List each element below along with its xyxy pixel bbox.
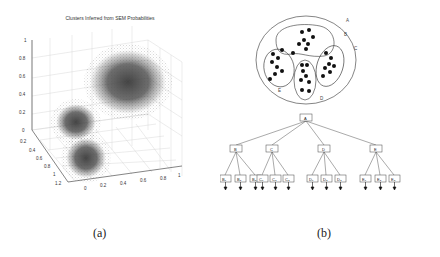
svg-text:D: D — [322, 147, 325, 152]
caption-a: (a) — [93, 226, 106, 241]
svg-text:C: C — [270, 147, 273, 152]
panel-a-scatter-plot: Clusters Inferred from SEM Probabilities — [0, 0, 220, 257]
svg-text:E₂: E₂ — [377, 177, 382, 182]
svg-text:0.8: 0.8 — [44, 164, 51, 169]
svg-text:0.2: 0.2 — [100, 183, 107, 188]
z-axis-ticks: 0 0.2 0.4 0.6 0.8 1 — [19, 38, 27, 133]
svg-text:0.6: 0.6 — [36, 156, 43, 161]
scatter-clusters — [51, 44, 172, 183]
svg-text:0.2: 0.2 — [19, 110, 26, 115]
hierarchy-svg: A B C D E — [220, 0, 440, 230]
svg-text:0.4: 0.4 — [19, 92, 26, 97]
set-C — [311, 42, 349, 90]
set-D — [294, 60, 316, 100]
caption-b: (b) — [317, 226, 331, 241]
svg-text:B₂: B₂ — [237, 177, 242, 182]
svg-text:E: E — [374, 147, 377, 152]
svg-text:0.4: 0.4 — [29, 148, 36, 153]
svg-text:D₂: D₂ — [323, 177, 328, 182]
scatter-3d-axes: 0 0.2 0.4 0.6 0.8 1 0.2 0.4 0.6 0.8 1 1.… — [0, 0, 220, 230]
svg-text:0.8: 0.8 — [19, 56, 26, 61]
svg-text:C₃: C₃ — [285, 177, 290, 182]
y-axis-ticks: 0.2 0.4 0.6 0.8 1 1.2 — [20, 139, 62, 186]
svg-text:0.4: 0.4 — [120, 181, 127, 186]
svg-text:1: 1 — [53, 172, 56, 177]
svg-text:0.2: 0.2 — [20, 139, 27, 144]
venn-diagram — [256, 16, 356, 104]
svg-text:E₁: E₁ — [362, 177, 367, 182]
svg-text:0.6: 0.6 — [140, 178, 147, 183]
tree-node-labels: A B C D E B₁ B₂ B₃ C₁ C₂ C₃ D₁ D₂ D₃ E₁ … — [222, 116, 396, 182]
svg-text:B₁: B₁ — [222, 177, 227, 182]
svg-text:1: 1 — [178, 173, 181, 178]
leaf-arrows — [224, 182, 396, 190]
svg-text:0.8: 0.8 — [160, 176, 167, 181]
svg-text:A: A — [304, 116, 307, 121]
svg-text:0: 0 — [84, 186, 87, 191]
svg-text:C₂: C₂ — [272, 177, 277, 182]
svg-text:A: A — [346, 18, 349, 23]
svg-text:C₁: C₁ — [259, 177, 264, 182]
svg-text:D₃: D₃ — [337, 177, 342, 182]
svg-text:D: D — [320, 96, 324, 101]
tree-edges — [225, 121, 394, 175]
tree-nodes — [220, 114, 400, 182]
venn-labels: A B C D E — [278, 18, 358, 101]
svg-text:1: 1 — [24, 38, 27, 43]
svg-text:1.2: 1.2 — [55, 181, 62, 186]
svg-text:D₁: D₁ — [309, 177, 314, 182]
svg-text:E: E — [278, 88, 281, 93]
svg-text:B₃: B₃ — [252, 177, 257, 182]
svg-text:E₃: E₃ — [391, 177, 396, 182]
svg-text:0: 0 — [22, 128, 25, 133]
svg-text:C: C — [354, 46, 358, 51]
svg-text:B: B — [234, 147, 237, 152]
svg-text:B: B — [344, 32, 347, 37]
panel-b-hierarchy-diagram: A B C D E — [220, 0, 440, 257]
svg-text:0.6: 0.6 — [19, 74, 26, 79]
